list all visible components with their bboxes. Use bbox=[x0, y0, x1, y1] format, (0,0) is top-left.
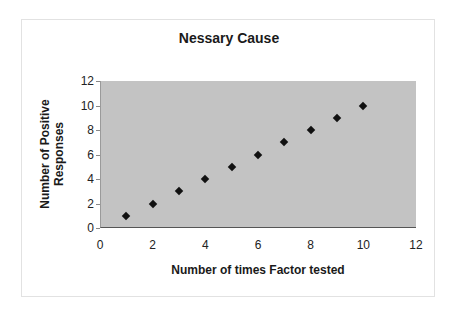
y-axis-label-line2: Responses bbox=[52, 54, 66, 254]
y-tick-mark bbox=[96, 155, 100, 156]
y-tick-mark bbox=[96, 204, 100, 205]
x-tick-label: 0 bbox=[97, 238, 104, 252]
y-tick-label: 8 bbox=[87, 123, 94, 137]
y-tick-mark bbox=[96, 130, 100, 131]
y-tick-mark bbox=[96, 81, 100, 82]
y-tick-label: 2 bbox=[87, 197, 94, 211]
y-axis-label: Number of Positive Responses bbox=[38, 54, 66, 254]
x-tick-label: 2 bbox=[149, 238, 156, 252]
x-tick-label: 12 bbox=[409, 238, 422, 252]
x-tick-label: 10 bbox=[357, 238, 370, 252]
y-tick-label: 12 bbox=[81, 74, 94, 88]
x-tick-label: 8 bbox=[307, 238, 314, 252]
x-tick-label: 4 bbox=[202, 238, 209, 252]
y-tick-label: 0 bbox=[87, 221, 94, 235]
x-axis-label: Number of times Factor tested bbox=[100, 263, 416, 277]
y-tick-mark bbox=[96, 228, 100, 229]
x-tick-label: 6 bbox=[255, 238, 262, 252]
y-tick-label: 6 bbox=[87, 148, 94, 162]
y-tick-mark bbox=[96, 179, 100, 180]
chart-title: Nessary Cause bbox=[0, 30, 458, 46]
y-axis-label-line1: Number of Positive bbox=[38, 54, 52, 254]
y-tick-mark bbox=[96, 106, 100, 107]
y-tick-label: 10 bbox=[81, 99, 94, 113]
y-tick-label: 4 bbox=[87, 172, 94, 186]
